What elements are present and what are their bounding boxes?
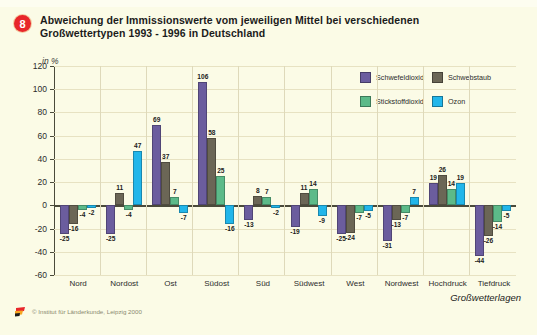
x-axis-tick-label: Tiefdruck [471,279,517,288]
bar[interactable] [484,205,493,235]
bar-group: 19261419 [424,66,470,275]
bar-value-label: 19 [457,174,464,181]
bar[interactable] [198,82,207,205]
bar[interactable] [410,197,419,205]
bar[interactable] [438,175,447,205]
bar-value-label: -5 [503,212,509,219]
bar[interactable] [401,205,410,213]
bar-slot: -19 [291,66,300,275]
y-axis-tick-label: 120 [33,61,47,71]
bar[interactable] [78,205,87,210]
bar-group: -31-13-77 [378,66,424,275]
bar-slot: -31 [383,66,392,275]
chart-page: 8 Abweichung der Immissionswerte vom jew… [0,0,537,335]
bar-value-label: 11 [116,184,123,191]
y-axis-tick [50,229,54,230]
bar[interactable] [475,205,484,256]
bar[interactable] [115,193,124,206]
bar-set: 19261419 [424,66,470,275]
bar[interactable] [456,183,465,205]
bar-slot: -5 [364,66,373,275]
x-axis-tick-label: Nord [55,279,101,288]
bar[interactable] [392,205,401,220]
y-axis-tick-label: 40 [38,154,47,164]
bar-value-label: -25 [106,235,116,242]
bar[interactable] [355,205,364,213]
bar-group: -25-16-4-2 [55,66,101,275]
bar[interactable] [244,205,253,220]
bar[interactable] [124,205,133,210]
bar-slot: 8 [253,66,262,275]
bar-value-label: 69 [153,116,160,123]
bar[interactable] [225,205,234,224]
bar-value-label: -5 [365,212,371,219]
page-top-border [0,0,537,7]
bar-value-label: 26 [439,166,446,173]
bar-value-label: -2 [273,209,279,216]
bar[interactable] [346,205,355,233]
y-axis-tick [50,159,54,160]
bar[interactable] [133,151,142,206]
bar[interactable] [262,197,271,205]
bar[interactable] [60,205,69,234]
bar-value-label: -14 [493,223,503,230]
bar[interactable] [179,205,188,213]
x-axis-tick-label: Ost [147,279,193,288]
chart-header: 8 Abweichung der Immissionswerte vom jew… [14,14,527,41]
bar[interactable] [383,205,392,241]
bar-set: -44-26-14-5 [470,66,516,275]
bar-set: 69377-7 [147,66,193,275]
bar-slot: -44 [475,66,484,275]
bar-value-label: -2 [89,209,95,216]
bar[interactable] [216,176,225,205]
bar[interactable] [300,193,309,206]
bar[interactable] [106,205,115,234]
y-axis-tick-label: -60 [35,270,47,280]
bar[interactable] [291,205,300,227]
bar-value-label: -7 [402,214,408,221]
bar-slot: -9 [318,66,327,275]
bar-value-label: -16 [69,225,79,232]
title-line-1: Abweichung der Immissionswerte vom jewei… [40,14,419,27]
copyright-text: © Institut für Länderkunde, Leipzig 2000 [32,308,142,315]
bar-slot: -7 [179,66,188,275]
bar[interactable] [69,205,78,224]
bar[interactable] [170,197,179,205]
bar-group: -191114-9 [285,66,331,275]
bar[interactable] [493,205,502,221]
bar[interactable] [271,205,280,207]
bar-group: 69377-7 [147,66,193,275]
bar-slot: -7 [401,66,410,275]
grid-line [54,275,516,276]
bar[interactable] [364,205,373,211]
bar-slot: 7 [262,66,271,275]
bar-value-label: 14 [448,180,455,187]
y-axis-tick [50,112,54,113]
bar-slot: 7 [410,66,419,275]
y-axis-tick-label: -20 [35,224,47,234]
bar-slot: 11 [115,66,124,275]
bar[interactable] [318,205,327,215]
bar[interactable] [309,189,318,205]
bar-value-label: 11 [301,184,308,191]
bar-slot: -24 [346,66,355,275]
bar[interactable] [337,205,346,234]
bar-value-label: 25 [217,167,224,174]
bar[interactable] [447,189,456,205]
bar[interactable] [152,125,161,205]
bar-slot: -5 [502,66,511,275]
bar[interactable] [161,162,170,205]
bar[interactable] [429,183,438,205]
bar-group: -44-26-14-5 [470,66,516,275]
bar-slot: 11 [300,66,309,275]
ifl-flag-logo-icon [14,306,27,317]
bar[interactable] [502,205,511,211]
bar[interactable] [207,138,216,205]
y-axis-tick [50,275,54,276]
bar-slot: 106 [198,66,207,275]
bar[interactable] [253,196,262,205]
bar-slot: 25 [216,66,225,275]
bar-value-label: 8 [256,187,260,194]
bar-slot: -26 [484,66,493,275]
bar[interactable] [87,205,96,207]
